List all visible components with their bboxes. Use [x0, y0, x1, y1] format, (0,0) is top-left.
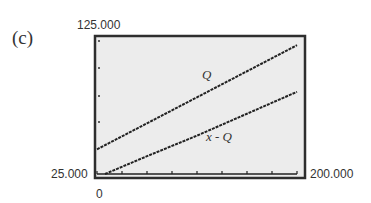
series-label-x-minus-q: x - Q: [205, 129, 233, 144]
line-chart: Q x - Q: [0, 0, 371, 203]
series-label-q: Q: [202, 67, 212, 82]
plot-frame: [95, 36, 305, 178]
